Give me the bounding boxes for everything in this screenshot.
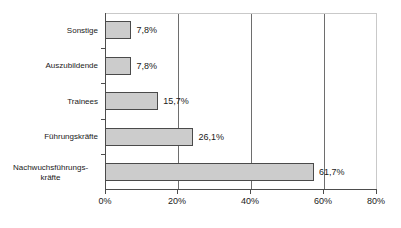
y-tick-1 — [101, 48, 105, 49]
category-label-trainees: Trainees — [3, 97, 98, 107]
y-tick-2 — [101, 83, 105, 84]
bar-auszubildende — [105, 57, 131, 75]
x-tick-label-20: 20% — [157, 196, 197, 206]
x-tick-60 — [323, 190, 324, 194]
bar-sonstige — [105, 21, 131, 39]
value-label-auszubildende: 7,8% — [136, 61, 157, 71]
value-label-trainees: 15,7% — [163, 96, 189, 106]
category-label-sonstige: Sonstige — [3, 26, 98, 36]
x-tick-0 — [105, 190, 106, 194]
category-label-auszubildende: Auszubildende — [3, 61, 98, 71]
bar-trainees — [105, 92, 158, 110]
bar-fuehrungskraefte — [105, 128, 193, 146]
category-label-fuehrungskraefte: Führungskräfte — [3, 132, 98, 142]
bar-chart: Sonstige Auszubildende Trainees Führungs… — [0, 0, 401, 228]
value-label-fuehrungskraefte: 26,1% — [198, 132, 224, 142]
x-tick-label-80: 80% — [356, 196, 396, 206]
y-tick-4 — [101, 154, 105, 155]
bar-nachwuchsfuehrungskraefte — [105, 163, 314, 181]
x-tick-40 — [250, 190, 251, 194]
x-axis-line — [105, 189, 377, 190]
x-tick-20 — [177, 190, 178, 194]
value-label-sonstige: 7,8% — [136, 25, 157, 35]
x-tick-label-40: 40% — [230, 196, 270, 206]
x-tick-label-0: 0% — [85, 196, 125, 206]
category-label-nachwuchsfuehrungskraefte: Nachwuchsführungs- kräfte — [3, 163, 98, 182]
x-tick-label-60: 60% — [303, 196, 343, 206]
y-tick-3 — [101, 119, 105, 120]
gridline-60 — [324, 14, 325, 189]
value-label-nachwuchsfuehrungskraefte: 61,7% — [319, 167, 345, 177]
x-tick-80 — [376, 190, 377, 194]
